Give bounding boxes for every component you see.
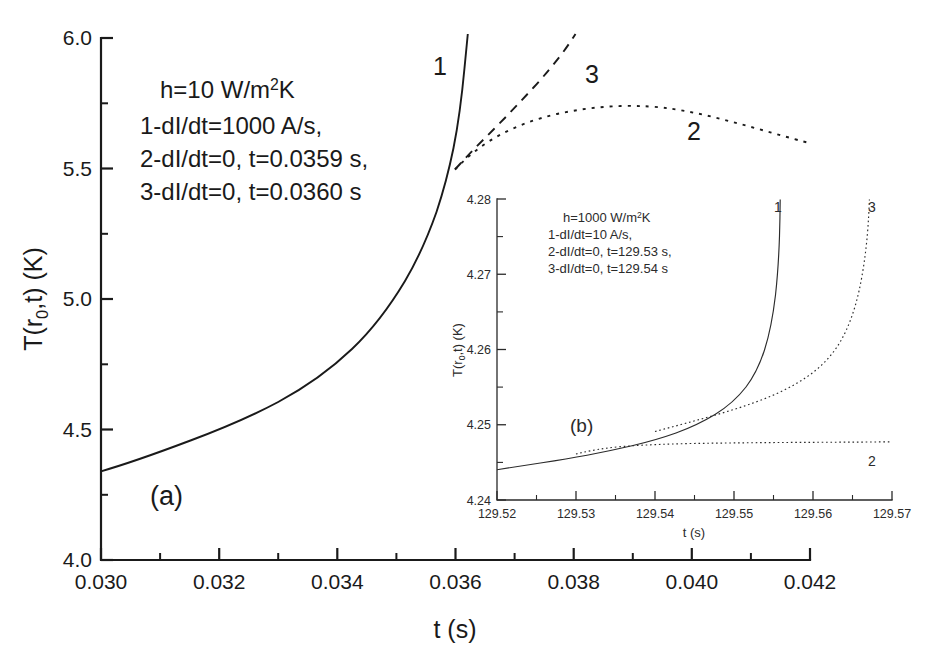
- main-x-tick-label: 0.040: [666, 570, 719, 593]
- panel-b-label: (b): [570, 415, 593, 436]
- inset-x-tick-label: 129.55: [715, 507, 753, 521]
- main-y-major-ticks: [101, 38, 113, 560]
- main-annotation-line3: 2-dI/dt=0, t=0.0359 s,: [140, 145, 368, 172]
- inset-curve-3: [655, 200, 869, 432]
- main-x-axis-title: t (s): [433, 615, 476, 643]
- inset-x-tick-label: 129.54: [636, 507, 674, 521]
- main-y-tick-label: 4.5: [63, 418, 92, 441]
- inset-annotation-line4: 3-dI/dt=0, t=129.54 s: [548, 261, 668, 276]
- inset-y-tick-label: 4.27: [467, 268, 491, 282]
- main-x-tick-label: 0.032: [193, 570, 246, 593]
- panel-a-label: (a): [150, 481, 183, 511]
- inset-x-tick-label: 129.57: [873, 507, 911, 521]
- main-curve-3: [455, 34, 576, 170]
- inset-curve-label-3: 3: [868, 199, 876, 215]
- inset-y-tick-label: 4.25: [467, 418, 491, 432]
- inset-x-tick-labels: 129.52 129.53 129.54 129.55 129.56 129.5…: [478, 507, 911, 521]
- main-curve-label-2: 2: [687, 117, 701, 145]
- inset-x-tick-label: 129.52: [478, 507, 516, 521]
- figure-svg: 4.0 4.5 5.0 5.5 6.0 0.030 0.032 0.034 0.…: [0, 0, 945, 668]
- main-plot: 4.0 4.5 5.0 5.5 6.0 0.030 0.032 0.034 0.…: [19, 26, 836, 643]
- inset-curve-label-2: 2: [868, 453, 876, 469]
- inset-y-tick-label: 4.24: [467, 494, 491, 508]
- main-y-tick-label: 5.0: [63, 287, 92, 310]
- main-curve-2: [455, 106, 810, 170]
- inset-x-axis-title: t (s): [683, 525, 705, 540]
- main-curve-label-3: 3: [585, 60, 599, 88]
- inset-y-tick-label: 4.28: [467, 193, 491, 207]
- inset-x-tick-label: 129.53: [557, 507, 595, 521]
- inset-annotation-line3: 2-dI/dt=0, t=129.53 s,: [548, 244, 672, 259]
- main-x-tick-label: 0.030: [75, 570, 128, 593]
- inset-x-minor-ticks: [537, 495, 853, 500]
- inset-curve-label-1: 1: [774, 199, 782, 215]
- inset-y-axis-title: T(r0,t) (K): [450, 323, 467, 377]
- main-x-tick-label: 0.036: [429, 570, 482, 593]
- inset-annotation-line1: h=1000 W/m2K: [563, 210, 651, 225]
- main-x-major-ticks: [101, 548, 810, 560]
- main-y-axis-title: T(r0,t) (K): [19, 247, 51, 351]
- main-annotation-line2: 1-dI/dt=1000 A/s,: [140, 112, 322, 139]
- main-x-tick-label: 0.034: [311, 570, 364, 593]
- main-curve-label-1: 1: [433, 52, 447, 80]
- main-y-tick-labels: 4.0 4.5 5.0 5.5 6.0: [63, 26, 92, 571]
- main-annotation-line1: h=10 W/m2K: [160, 76, 295, 103]
- main-annotation-line4: 3-dI/dt=0, t=0.0360 s: [140, 178, 362, 205]
- inset-annotation: h=1000 W/m2K 1-dI/dt=10 A/s, 2-dI/dt=0, …: [548, 210, 672, 276]
- main-x-tick-labels: 0.030 0.032 0.034 0.036 0.038 0.040 0.04…: [75, 570, 837, 593]
- main-y-tick-label: 4.0: [63, 548, 92, 571]
- inset-curve-1: [497, 200, 780, 470]
- main-y-tick-label: 5.5: [63, 157, 92, 180]
- inset-y-tick-labels: 4.24 4.25 4.26 4.27 4.28: [467, 193, 491, 508]
- inset-y-tick-label: 4.26: [467, 343, 491, 357]
- inset-x-tick-label: 129.56: [794, 507, 832, 521]
- main-x-tick-label: 0.042: [784, 570, 837, 593]
- inset-y-major-ticks: [497, 199, 506, 500]
- inset-plot: 4.24 4.25 4.26 4.27 4.28 129.52 129.53 1…: [450, 193, 911, 541]
- main-x-tick-label: 0.038: [547, 570, 600, 593]
- inset-annotation-line2: 1-dI/dt=10 A/s,: [548, 227, 632, 242]
- figure-root: 4.0 4.5 5.0 5.5 6.0 0.030 0.032 0.034 0.…: [0, 0, 945, 668]
- main-y-tick-label: 6.0: [63, 26, 92, 49]
- main-annotation: h=10 W/m2K 1-dI/dt=1000 A/s, 2-dI/dt=0, …: [140, 76, 368, 205]
